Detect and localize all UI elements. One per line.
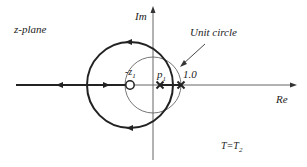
locus-arrow-bottom-icon <box>126 125 133 131</box>
real-axis-label: Re <box>276 94 288 105</box>
locus-arrow-top-icon <box>125 39 132 45</box>
zero-marker <box>126 81 134 89</box>
pole-label-sub: 1 <box>163 75 167 83</box>
condition-label-text: T=T <box>221 140 239 151</box>
condition-label: T=T2 <box>221 141 242 154</box>
unit-circle-label: Unit circle <box>190 27 237 38</box>
real-axis-arrow-icon <box>290 83 297 88</box>
plane-label: z-plane <box>14 24 46 35</box>
zero-label: -z1 <box>125 67 136 80</box>
locus-arrow-left-icon <box>56 82 63 88</box>
locus-arrow-right-icon <box>103 82 110 88</box>
condition-label-sub: 2 <box>239 146 243 154</box>
pole-label: p1 <box>157 69 166 83</box>
imag-axis-label: Im <box>135 11 147 22</box>
imag-axis-arrow-icon <box>151 6 156 13</box>
unit-circle-pointer <box>183 44 205 64</box>
one-label: 1.0 <box>183 69 197 80</box>
zero-label-sub: 1 <box>132 72 136 80</box>
